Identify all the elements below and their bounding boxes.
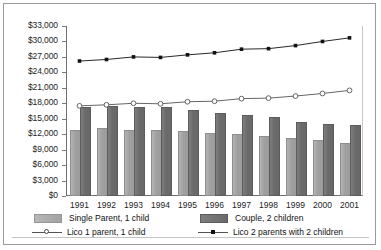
y-axis-tick-label: $24,000 [28, 66, 58, 76]
legend-swatch-bar-icon [200, 214, 228, 223]
bar-couple-2000 [323, 124, 335, 196]
y-axis-tick-label: $0 [49, 190, 58, 200]
y-axis-tick-mark [62, 196, 66, 197]
x-axis-tick-label: 1992 [93, 200, 120, 210]
y-axis-tick-label: $15,000 [28, 113, 58, 123]
y-axis-tick-label: $21,000 [28, 82, 58, 92]
legend-item-couple[interactable]: Couple, 2 children [200, 213, 304, 223]
y-axis-tick-label: $6,000 [33, 159, 58, 169]
x-axis-tick-label: 1999 [282, 200, 309, 210]
bar-couple-1995 [188, 110, 200, 196]
legend-label: Couple, 2 children [235, 213, 304, 223]
bar-couple-1993 [134, 107, 146, 196]
bar-couple-2001 [350, 125, 362, 196]
x-axis-tick-label: 1996 [201, 200, 228, 210]
legend-divider [12, 237, 369, 238]
x-axis-tick-label: 1995 [174, 200, 201, 210]
bar-couple-1991 [80, 107, 92, 196]
x-axis-tick-label: 1997 [228, 200, 255, 210]
x-axis-tick-label: 1993 [120, 200, 147, 210]
legend-item-lico-2-parents[interactable]: Lico 2 parents with 2 children [198, 227, 343, 237]
plot-wrap: $33,000$30,000$27,000$24,000$21,000$18,0… [4, 4, 377, 204]
y-axis-tick-label: $33,000 [28, 20, 58, 30]
x-axis-tick-label: 2001 [336, 200, 363, 210]
x-axis-tick-label: 1994 [147, 200, 174, 210]
legend-label: Lico 1 parent, 1 child [67, 227, 145, 237]
x-axis-tick-label: 1998 [255, 200, 282, 210]
x-axis-tick-label: 1991 [66, 200, 93, 210]
legend-line-open-circle-icon [32, 228, 62, 237]
legend-swatch-bar-icon [34, 214, 62, 223]
bar-couple-1996 [215, 113, 227, 196]
bar-couple-1994 [161, 107, 173, 196]
y-axis-tick-label: $12,000 [28, 128, 58, 138]
y-axis-tick-label: $27,000 [28, 51, 58, 61]
y-axis-tick-label: $3,000 [33, 175, 58, 185]
legend-label: Single Parent, 1 child [69, 213, 149, 223]
bar-couple-1992 [107, 106, 119, 196]
legend-line-filled-marker-icon [198, 228, 228, 237]
bar-couple-1998 [269, 117, 281, 196]
bar-couple-1997 [242, 115, 254, 196]
bar-couple-1999 [296, 122, 308, 196]
legend-label: Lico 2 parents with 2 children [233, 227, 343, 237]
y-axis-tick-label: $9,000 [33, 144, 58, 154]
legend-item-lico-1-parent[interactable]: Lico 1 parent, 1 child [32, 227, 145, 237]
chart-card: $33,000$30,000$27,000$24,000$21,000$18,0… [3, 3, 376, 245]
y-axis-tick-label: $30,000 [28, 35, 58, 45]
y-axis-tick-label: $18,000 [28, 97, 58, 107]
legend-item-single-parent[interactable]: Single Parent, 1 child [34, 213, 149, 223]
chart-legend: Single Parent, 1 child Couple, 2 childre… [4, 210, 377, 244]
x-axis-tick-label: 2000 [309, 200, 336, 210]
